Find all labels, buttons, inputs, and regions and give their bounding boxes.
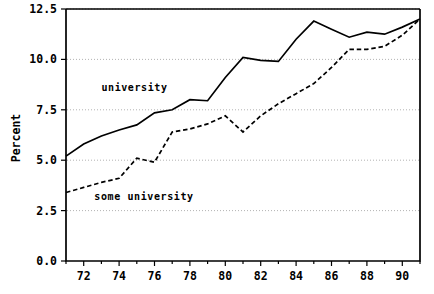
- x-tick-label: 80: [218, 269, 232, 283]
- series-annotation-label: university: [101, 82, 167, 93]
- data-series-layer: [66, 19, 420, 192]
- x-tick-label: 84: [289, 269, 303, 283]
- line-chart: 0.02.55.07.510.012.5 7274767880828486889…: [0, 0, 434, 294]
- y-tick-label: 7.5: [36, 103, 57, 117]
- series-line-some-university: [66, 19, 420, 192]
- axis-frame: [66, 9, 420, 261]
- y-tick-label: 5.0: [36, 153, 57, 167]
- x-tick-label: 88: [360, 269, 374, 283]
- y-tick-label: 2.5: [36, 204, 57, 218]
- x-tick-label: 74: [112, 269, 126, 283]
- x-tick-label: 72: [77, 269, 91, 283]
- y-axis-title: Percent: [9, 114, 23, 163]
- x-tick-label: 76: [148, 269, 162, 283]
- plot-frame: [66, 9, 420, 261]
- x-tick-label: 86: [325, 269, 339, 283]
- x-tick-label: 90: [395, 269, 409, 283]
- chart-container: 0.02.55.07.510.012.5 7274767880828486889…: [0, 0, 434, 294]
- x-tick-label: 78: [183, 269, 197, 283]
- x-axis-tick-labels: 72747678808284868890: [77, 269, 410, 283]
- y-axis-tick-labels: 0.02.55.07.510.012.5: [29, 2, 57, 268]
- y-tick-label: 0.0: [36, 254, 57, 268]
- x-tick-label: 82: [254, 269, 268, 283]
- gridlines: [67, 9, 419, 211]
- y-tick-label: 12.5: [29, 2, 57, 16]
- series-annotation-label: some university: [94, 191, 193, 202]
- series-annotations: universitysome university: [94, 82, 193, 202]
- tick-marks: [61, 9, 420, 266]
- y-tick-label: 10.0: [29, 52, 57, 66]
